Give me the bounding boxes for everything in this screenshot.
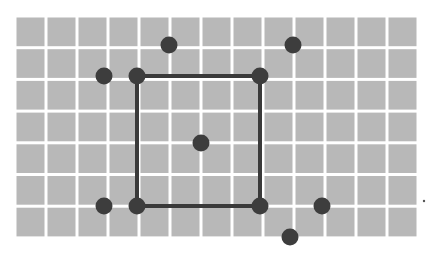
- grid-cell: [358, 144, 386, 173]
- stray-mark: [423, 200, 425, 202]
- grid-cell: [79, 113, 107, 142]
- grid-cell: [48, 113, 76, 142]
- point-marker: [96, 68, 113, 85]
- grid-cell: [172, 208, 200, 237]
- grid-cell: [358, 49, 386, 78]
- grid-cell: [48, 144, 76, 173]
- grid-cell: [141, 144, 169, 173]
- grid-cell: [48, 49, 76, 78]
- point-marker: [314, 198, 331, 215]
- grid-cell: [17, 113, 45, 142]
- grid-cell: [296, 81, 324, 110]
- grid-cell: [17, 176, 45, 205]
- grid-cell: [265, 81, 293, 110]
- grid-cell: [48, 208, 76, 237]
- grid-cell: [389, 49, 417, 78]
- grid-cell: [327, 81, 355, 110]
- point-marker: [285, 37, 302, 54]
- grid-cell: [327, 144, 355, 173]
- grid-cell: [48, 18, 76, 47]
- grid-cell: [203, 176, 231, 205]
- grid-cell: [358, 113, 386, 142]
- grid-cell: [203, 49, 231, 78]
- grid-cell: [172, 49, 200, 78]
- grid-cell: [358, 176, 386, 205]
- grid-cell: [265, 176, 293, 205]
- grid-cell: [48, 81, 76, 110]
- grid-cell: [389, 18, 417, 47]
- grid-cell: [234, 113, 262, 142]
- grid-cell: [17, 81, 45, 110]
- point-marker: [282, 229, 299, 246]
- grid-cell: [234, 18, 262, 47]
- point-marker: [96, 198, 113, 215]
- point-marker: [161, 37, 178, 54]
- grid-cell: [234, 144, 262, 173]
- grid-cell: [141, 176, 169, 205]
- grid-cell: [110, 18, 138, 47]
- grid-cell: [79, 81, 107, 110]
- grid-cell: [141, 81, 169, 110]
- grid-cell: [48, 176, 76, 205]
- grid-cell: [327, 176, 355, 205]
- point-marker: [129, 198, 146, 215]
- grid-cell: [265, 113, 293, 142]
- grid-cell: [327, 49, 355, 78]
- grid-cell: [17, 144, 45, 173]
- grid-cell: [172, 176, 200, 205]
- grid-cell: [110, 113, 138, 142]
- grid: [17, 18, 417, 237]
- grid-cell: [389, 176, 417, 205]
- grid-cell: [389, 81, 417, 110]
- grid-cell: [141, 208, 169, 237]
- grid-cell: [296, 113, 324, 142]
- grid-cell: [110, 81, 138, 110]
- grid-cell: [389, 113, 417, 142]
- grid-cell: [141, 113, 169, 142]
- grid-cell: [203, 81, 231, 110]
- grid-cell: [327, 18, 355, 47]
- grid-cell: [17, 208, 45, 237]
- grid-cell: [203, 208, 231, 237]
- grid-cell: [79, 144, 107, 173]
- grid-cell: [358, 208, 386, 237]
- grid-cell: [358, 81, 386, 110]
- geometry-diagram: [0, 0, 438, 256]
- grid-cell: [203, 18, 231, 47]
- grid-cell: [389, 208, 417, 237]
- grid-cell: [17, 49, 45, 78]
- grid-cell: [79, 18, 107, 47]
- grid-cell: [327, 113, 355, 142]
- point-marker: [252, 198, 269, 215]
- grid-cell: [110, 144, 138, 173]
- grid-cell: [234, 81, 262, 110]
- point-marker: [129, 68, 146, 85]
- grid-cell: [327, 208, 355, 237]
- grid-cell: [172, 81, 200, 110]
- point-marker: [193, 135, 210, 152]
- point-marker: [252, 68, 269, 85]
- grid-cell: [296, 144, 324, 173]
- grid-cell: [17, 18, 45, 47]
- grid-cell: [358, 18, 386, 47]
- grid-cell: [296, 49, 324, 78]
- grid-cell: [389, 144, 417, 173]
- grid-cell: [265, 49, 293, 78]
- grid-cell: [265, 144, 293, 173]
